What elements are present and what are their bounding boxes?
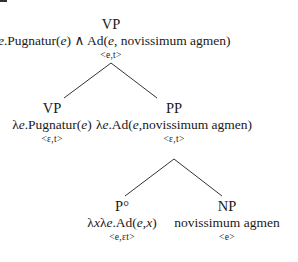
left-type: <ε,t> — [12, 135, 92, 145]
p-head-type: <e,εt> — [87, 233, 156, 243]
np-category: NP — [174, 199, 279, 214]
edge-root-left — [64, 63, 111, 98]
root-vp-node: VP λe.Pugnatur(e) ∧ Ad(e, novissimum agm… — [0, 17, 231, 61]
left-category: VP — [12, 101, 92, 116]
right-pp-node: PP λe.Ad(e,novissimum agmen) <ε,t> — [96, 101, 252, 145]
left-vp-node: VP λe.Pugnatur(e) <ε,t> — [12, 101, 92, 145]
np-type: <e> — [174, 233, 279, 243]
right-semantics: λe.Ad(e,novissimum agmen) — [96, 118, 252, 132]
root-type: <e,t> — [0, 51, 231, 61]
p-head-category: P° — [87, 199, 156, 214]
left-semantics: λe.Pugnatur(e) — [12, 118, 92, 132]
right-category: PP — [96, 101, 252, 116]
edge-pp-np — [174, 159, 222, 196]
p-head-node: P° λxλe.Ad(e,x) <e,εt> — [87, 199, 156, 243]
edge-root-right — [111, 63, 157, 98]
np-semantics: novissimum agmen — [174, 216, 279, 230]
edge-pp-phead — [125, 159, 174, 196]
np-node: NP novissimum agmen <e> — [174, 199, 279, 243]
right-type: <ε,t> — [96, 135, 252, 145]
p-head-semantics: λxλe.Ad(e,x) — [87, 216, 156, 230]
root-category: VP — [0, 17, 231, 32]
root-semantics: λe.Pugnatur(e) ∧ Ad(e, novissimum agmen) — [0, 34, 231, 48]
